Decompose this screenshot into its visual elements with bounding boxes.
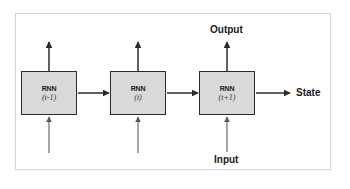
rnn-cell-t-plus-1: RNN (t+1) <box>199 71 255 115</box>
state-label: State <box>296 87 320 98</box>
output-label: Output <box>210 24 243 35</box>
rnn-cell-step: (t+1) <box>219 93 236 103</box>
input-label: Input <box>214 154 238 165</box>
rnn-cell-t-minus-1: RNN (t-1) <box>21 71 77 115</box>
rnn-cell-step: (t) <box>134 93 142 103</box>
rnn-cell-t: RNN (t) <box>110 71 166 115</box>
rnn-cell-title: RNN <box>42 84 57 93</box>
rnn-cell-title: RNN <box>131 84 146 93</box>
rnn-cell-title: RNN <box>220 84 235 93</box>
rnn-cell-step: (t-1) <box>42 93 56 103</box>
